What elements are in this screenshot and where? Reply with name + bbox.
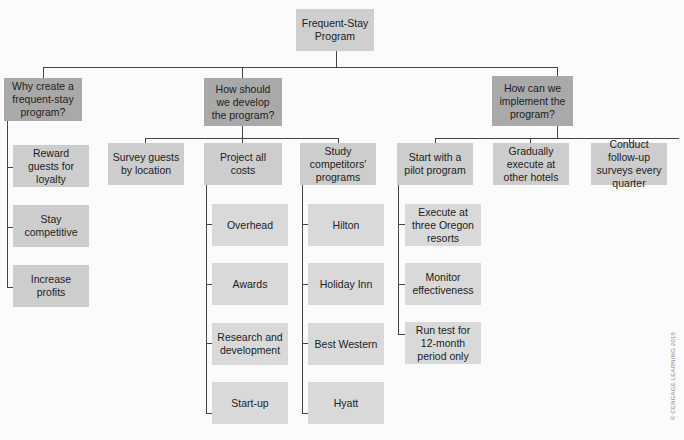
node-label: Project all costs xyxy=(208,151,278,177)
node-label: Study competitors' programs xyxy=(304,145,372,184)
node-label: Best Western xyxy=(315,338,378,351)
branch-label: How can we implement the program? xyxy=(496,82,569,121)
connector xyxy=(336,50,337,67)
node-label: Monitor effectiveness xyxy=(409,271,477,297)
node-survey-guests: Survey guests by location xyxy=(108,143,184,185)
node-hilton: Hilton xyxy=(308,204,384,246)
node-monitor-effectiveness: Monitor effectiveness xyxy=(405,263,481,305)
node-label: Conduct follow-up surveys every quarter xyxy=(595,138,663,190)
node-project-costs: Project all costs xyxy=(204,143,282,185)
connector xyxy=(43,67,558,68)
root-node: Frequent-Stay Program xyxy=(296,9,374,51)
copyright-notice: © CENGAGE LEARNING 2015 xyxy=(666,320,680,432)
connector xyxy=(302,184,303,413)
connector xyxy=(398,284,405,285)
node-stay-competitive: Stay competitive xyxy=(13,205,89,247)
connector xyxy=(398,184,399,334)
connector xyxy=(242,126,243,138)
node-label: Run test for 12-month period only xyxy=(409,324,477,363)
connector xyxy=(398,334,405,335)
node-study-competitors: Study competitors' programs xyxy=(300,143,376,185)
branch-label: Why create a frequent-stay program? xyxy=(8,80,78,119)
branch-why: Why create a frequent-stay program? xyxy=(4,78,82,121)
root-label: Frequent-Stay Program xyxy=(300,17,370,43)
node-label: Research and development xyxy=(216,331,284,357)
branch-how-develop: How should we develop the program? xyxy=(204,78,282,126)
node-label: Awards xyxy=(233,278,268,291)
node-best-western: Best Western xyxy=(308,323,384,365)
node-label: Increase profits xyxy=(17,273,85,299)
node-awards: Awards xyxy=(212,263,288,305)
node-label: Overhead xyxy=(227,219,273,232)
node-gradually-execute: Gradually execute at other hotels xyxy=(493,143,569,185)
node-label: Hilton xyxy=(333,219,360,232)
node-label: Stay competitive xyxy=(17,213,85,239)
node-label: Reward guests for loyalty xyxy=(17,147,85,186)
branch-how-implement: How can we implement the program? xyxy=(492,76,573,126)
connector xyxy=(557,126,558,138)
branch-label: How should we develop the program? xyxy=(208,83,278,122)
node-run-test: Run test for 12-month period only xyxy=(405,322,481,364)
node-conduct-surveys: Conduct follow-up surveys every quarter xyxy=(591,143,667,185)
node-hyatt: Hyatt xyxy=(308,382,384,424)
node-label: Hyatt xyxy=(334,397,359,410)
connector xyxy=(7,121,8,287)
node-label: Holiday Inn xyxy=(320,278,373,291)
node-overhead: Overhead xyxy=(212,204,288,246)
node-label: Execute at three Oregon resorts xyxy=(409,206,477,245)
node-holiday-inn: Holiday Inn xyxy=(308,263,384,305)
node-research-development: Research and development xyxy=(212,323,288,365)
node-execute-oregon: Execute at three Oregon resorts xyxy=(405,204,481,246)
node-start-up: Start-up xyxy=(212,382,288,424)
node-label: Gradually execute at other hotels xyxy=(497,145,565,184)
copyright-text: © CENGAGE LEARNING 2015 xyxy=(670,332,676,420)
node-reward-guests: Reward guests for loyalty xyxy=(13,145,89,187)
node-label: Start with a pilot program xyxy=(401,151,469,177)
node-label: Start-up xyxy=(231,397,268,410)
connector xyxy=(398,224,405,225)
node-start-pilot: Start with a pilot program xyxy=(397,143,473,185)
connector xyxy=(206,184,207,413)
node-label: Survey guests by location xyxy=(112,151,180,177)
node-increase-profits: Increase profits xyxy=(13,265,89,307)
